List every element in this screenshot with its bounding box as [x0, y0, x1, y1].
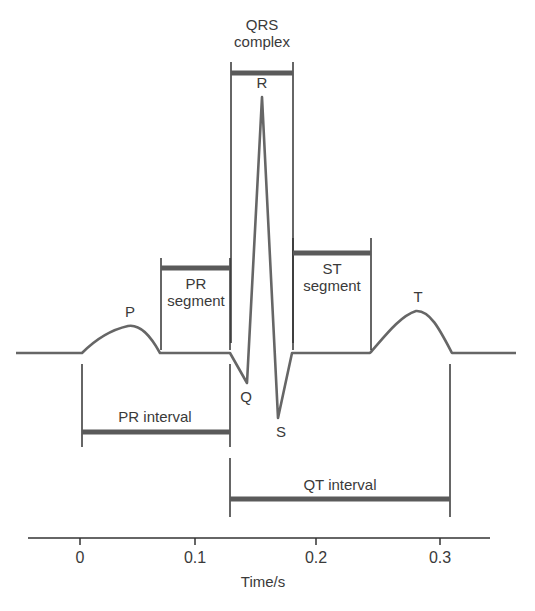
- st-segment-label: ST segment: [303, 260, 361, 294]
- st-segment-bracket: [293, 238, 371, 350]
- qrs-complex-label: QRS complex: [234, 16, 290, 50]
- tick-label-0: 0: [76, 549, 85, 566]
- time-axis: [28, 538, 490, 545]
- ecg-diagram: [0, 0, 535, 611]
- s-wave-label: S: [276, 423, 286, 440]
- p-wave-label: P: [125, 303, 135, 320]
- pr-segment-line2: segment: [167, 292, 225, 309]
- st-segment-line1: ST: [303, 260, 361, 277]
- ecg-trace: [16, 97, 516, 418]
- st-segment-line2: segment: [303, 277, 361, 294]
- qt-interval-bracket: [230, 364, 450, 517]
- qt-interval-label: QT interval: [303, 476, 376, 493]
- qrs-label-line2: complex: [234, 33, 290, 50]
- r-wave-label: R: [257, 74, 268, 91]
- pr-segment-label: PR segment: [167, 275, 225, 309]
- pr-interval-bracket: [82, 364, 230, 447]
- t-wave-label: T: [413, 288, 422, 305]
- pr-interval-label: PR interval: [118, 408, 191, 425]
- tick-label-0-1: 0.1: [184, 549, 206, 566]
- pr-segment-line1: PR: [167, 275, 225, 292]
- q-wave-label: Q: [240, 388, 252, 405]
- tick-label-0-3: 0.3: [429, 549, 451, 566]
- tick-label-0-2: 0.2: [305, 549, 327, 566]
- axis-label: Time/s: [241, 573, 285, 590]
- qrs-label-line1: QRS: [234, 16, 290, 33]
